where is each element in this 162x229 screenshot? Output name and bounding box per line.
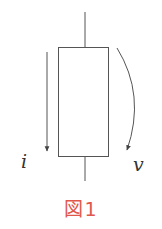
voltage-label: v	[133, 155, 144, 174]
figure-caption: 図1	[0, 200, 162, 219]
current-label: i	[21, 152, 27, 171]
voltage-arrow-icon	[117, 48, 135, 150]
circuit-element-diagram	[0, 0, 162, 229]
element-box	[59, 48, 109, 157]
